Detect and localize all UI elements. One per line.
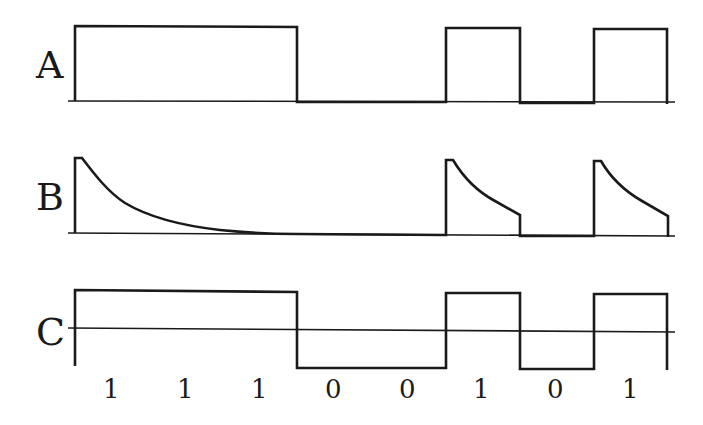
bit-label: 1 <box>251 374 268 404</box>
signal-b-trace <box>75 158 668 237</box>
bit-label: 0 <box>399 374 416 404</box>
signal-a-label: A <box>35 43 64 87</box>
waveform-diagram: A B C 1 1 1 0 0 1 0 1 <box>0 0 703 425</box>
signal-a: A <box>35 26 675 104</box>
bit-label: 1 <box>103 374 120 404</box>
bit-label: 0 <box>325 374 342 404</box>
signal-c-zero-axis <box>68 328 675 332</box>
bit-label: 1 <box>473 374 490 404</box>
bit-label: 1 <box>177 374 194 404</box>
signal-b-label: B <box>36 175 64 219</box>
bit-sequence: 1 1 1 0 0 1 0 1 <box>103 374 639 404</box>
signal-b: B <box>36 158 675 237</box>
bit-label: 0 <box>547 374 564 404</box>
signal-c-label: C <box>36 310 65 354</box>
bit-label: 1 <box>622 374 639 404</box>
signal-c: C <box>36 290 675 370</box>
signal-a-trace <box>75 26 667 104</box>
